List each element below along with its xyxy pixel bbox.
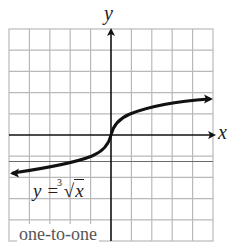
caption-one-to-one: one-to-one — [17, 224, 99, 245]
y-axis-label: y — [104, 2, 113, 25]
graph-canvas — [0, 0, 230, 252]
x-axis-label: x — [218, 121, 227, 144]
equation-radicand: x — [74, 179, 83, 201]
equation-label: y = 3√x — [33, 180, 84, 202]
radical-icon: √ — [64, 180, 74, 201]
equation-index: 3 — [57, 177, 62, 188]
